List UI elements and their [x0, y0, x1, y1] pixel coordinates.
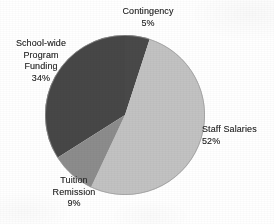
- pie-label-staff-salaries-percent: 52%: [202, 136, 274, 148]
- pie-label-contingency: Contingency 5%: [106, 6, 190, 29]
- pie-label-tuition-remission-text-line1: Tuition: [36, 175, 112, 187]
- pie-label-tuition-remission: Tuition Remission 9%: [36, 175, 112, 210]
- pie-label-tuition-remission-text-line2: Remission: [36, 187, 112, 199]
- pie-label-contingency-percent: 5%: [106, 18, 190, 30]
- pie-label-staff-salaries: Staff Salaries 52%: [202, 124, 274, 147]
- pie-label-school-wide-text-line1: School-wide: [4, 38, 78, 50]
- pie-label-tuition-remission-percent: 9%: [36, 198, 112, 210]
- pie-label-staff-salaries-text: Staff Salaries: [202, 124, 274, 136]
- pie-label-contingency-text: Contingency: [106, 6, 190, 18]
- pie-label-school-wide-program-funding: School-wide Program Funding 34%: [4, 38, 78, 84]
- pie-label-school-wide-text-line3: Funding: [4, 61, 78, 73]
- pie-label-school-wide-text-line2: Program: [4, 50, 78, 62]
- pie-chart-figure: Contingency 5% Staff Salaries 52% Tuitio…: [0, 0, 274, 224]
- pie-label-school-wide-percent: 34%: [4, 73, 78, 85]
